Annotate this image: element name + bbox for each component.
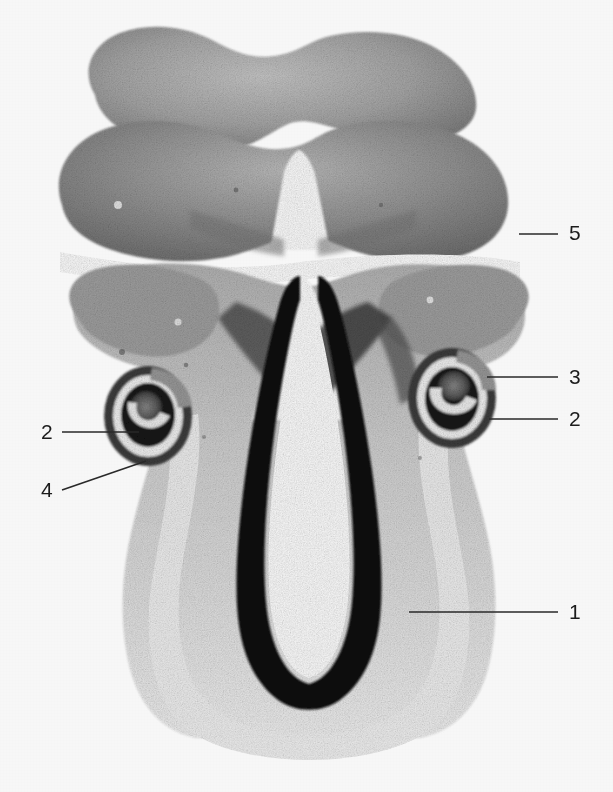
label-2-left: 2 <box>41 421 53 442</box>
figure-container: 5 3 2 2 4 1 <box>0 0 613 792</box>
label-2-right: 2 <box>569 408 581 429</box>
label-3: 3 <box>569 366 581 387</box>
histology-micrograph <box>0 0 613 792</box>
label-4: 4 <box>41 479 53 500</box>
label-1: 1 <box>569 601 581 622</box>
label-5: 5 <box>569 222 581 243</box>
